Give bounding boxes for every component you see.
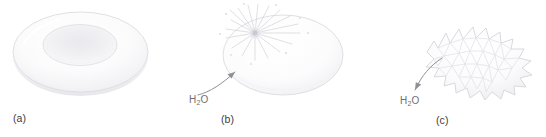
panel-label-a: (a): [13, 112, 26, 124]
panel-label-c: (c): [436, 114, 449, 126]
rupture-center: [253, 31, 258, 36]
water-label-c-o: O: [412, 95, 420, 106]
panel-a-illustration: [0, 0, 182, 110]
panel-a: (a): [0, 0, 182, 137]
water-label-b-o: O: [201, 94, 209, 105]
panel-b: H2O (b): [182, 0, 364, 137]
panel-b-illustration: [182, 0, 364, 110]
water-label-b: H2O: [189, 94, 209, 106]
panel-label-b: (b): [221, 113, 234, 125]
water-influx-arrow: [198, 72, 235, 95]
cell-central-dimple: [43, 25, 117, 66]
clipped-caption-strip: [0, 133, 546, 137]
panel-c-illustration: [364, 0, 546, 110]
water-label-c: H2O: [400, 95, 420, 107]
figure-canvas: (a): [0, 0, 546, 137]
panel-c: H2O (c): [364, 0, 546, 137]
